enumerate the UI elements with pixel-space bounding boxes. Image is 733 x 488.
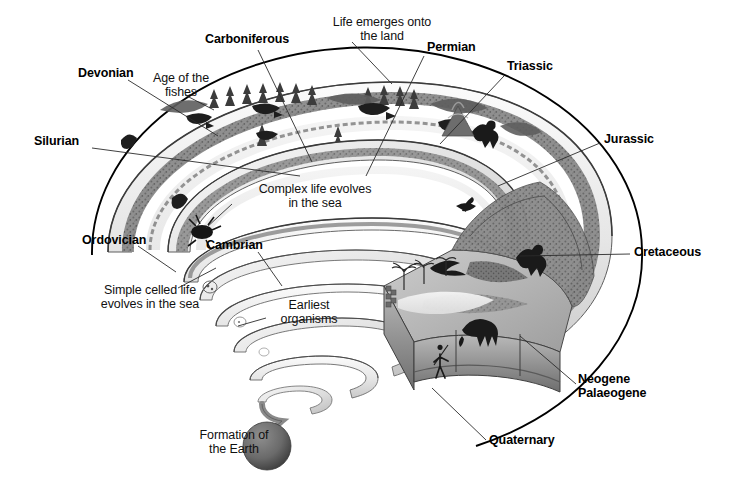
annotation-formation-of-the-earth: Formation of the Earth	[176, 428, 292, 456]
annotation-life-emerges-onto-land: Life emerges onto the land	[307, 15, 457, 43]
era-label-carboniferous: Carboniferous	[205, 32, 289, 46]
annotation-earliest-organisms: Earliest organisms	[258, 298, 360, 326]
era-label-ordovician: Ordovician	[82, 233, 146, 247]
era-label-devonian: Devonian	[78, 66, 133, 80]
era-label-jurassic: Jurassic	[604, 132, 654, 146]
era-label-cretaceous: Cretaceous	[634, 245, 701, 259]
geological-time-spiral-figure: Silurian Devonian Carboniferous Permian …	[0, 0, 733, 488]
era-label-silurian: Silurian	[34, 134, 79, 148]
annotation-complex-life-evolves: Complex life evolves in the sea	[230, 182, 400, 210]
era-label-cambrian: Cambrian	[206, 238, 263, 252]
era-label-quaternary: Quaternary	[489, 433, 555, 447]
era-label-triassic: Triassic	[507, 59, 553, 73]
annotation-simple-celled-life: Simple celled life evolves in the sea	[72, 283, 228, 311]
annotation-age-of-the-fishes: Age of the fishes	[133, 71, 229, 99]
era-label-neogene-palaeogene: Neogene Palaeogene	[578, 372, 646, 400]
